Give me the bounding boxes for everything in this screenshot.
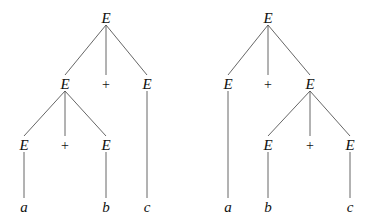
tree-node-operator: + [61,138,69,153]
parse-tree-left-associative [24,25,147,198]
tree-node-operator: + [264,77,272,92]
tree-node-nonterminal: E [18,137,28,153]
tree-edge [228,25,268,75]
tree-node-terminal: b [264,199,272,215]
tree-node-terminal: a [224,199,232,215]
tree-node-nonterminal: E [304,76,314,92]
tree-node-operator: + [102,77,110,92]
tree-node-terminal: c [347,199,354,215]
parse-tree-right-associative [228,25,350,198]
tree-edge [24,91,65,136]
tree-node-nonterminal: E [100,137,110,153]
tree-node-nonterminal: E [222,76,232,92]
tree-node-nonterminal: E [100,10,110,26]
tree-node-nonterminal: E [59,76,69,92]
tree-edge [65,91,106,136]
tree-node-terminal: b [102,199,110,215]
parse-tree-labels-right-associative: EE+EE+Eabc [222,10,354,215]
tree-edge [65,25,106,75]
tree-node-operator: + [306,138,314,153]
tree-node-nonterminal: E [262,10,272,26]
tree-edge [106,25,147,75]
tree-node-nonterminal: E [344,137,354,153]
parse-tree-diagram: EE+EE+EabcEE+EE+Eabc [0,0,372,222]
tree-node-nonterminal: E [141,76,151,92]
tree-edge [268,25,310,75]
tree-node-terminal: c [144,199,151,215]
tree-edge [268,91,310,136]
tree-nodes: EE+EE+EabcEE+EE+Eabc [18,10,354,215]
tree-node-nonterminal: E [262,137,272,153]
tree-edges [24,25,350,198]
tree-node-terminal: a [20,199,28,215]
tree-edge [310,91,350,136]
